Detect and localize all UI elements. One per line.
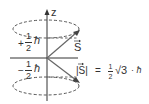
upper-cone-ellipse: [13, 20, 79, 38]
upper-fraction: 1 2: [25, 32, 32, 53]
upper-denominator: 2: [26, 44, 31, 53]
magnitude-lhs: |S|: [76, 66, 88, 76]
lower-sign: −: [18, 66, 24, 76]
upper-hbar: ħ: [34, 35, 40, 46]
magnitude-equals: =: [95, 66, 101, 76]
magnitude-fraction: 1 2: [108, 63, 113, 80]
magnitude-root: √3: [115, 65, 127, 76]
lower-denominator: 2: [26, 72, 31, 81]
vector-label: S: [74, 42, 81, 53]
upper-sign: +: [18, 39, 24, 49]
lower-hbar: ħ: [34, 63, 40, 74]
z-axis-arrowhead: [45, 9, 50, 15]
z-axis-label: z: [51, 7, 57, 18]
magnitude-hbar: · ħ: [131, 66, 142, 75]
upper-numerator: 1: [26, 32, 31, 41]
magnitude-numerator: 1: [109, 63, 113, 70]
magnitude-denominator: 2: [109, 73, 113, 80]
lower-fraction: 1 2: [25, 60, 32, 81]
lower-numerator: 1: [26, 60, 31, 69]
lower-cone-ellipse: [13, 77, 79, 95]
